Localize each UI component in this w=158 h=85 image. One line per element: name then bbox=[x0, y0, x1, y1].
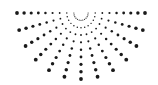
halftone-dot bbox=[59, 18, 61, 20]
halftone-dot bbox=[85, 18, 86, 19]
halftone-dot bbox=[94, 16, 95, 17]
halftone-dot bbox=[51, 62, 54, 65]
halftone-dot bbox=[87, 40, 89, 42]
halftone-dot bbox=[70, 23, 71, 24]
halftone-dot bbox=[121, 23, 124, 26]
halftone-dot bbox=[108, 12, 110, 14]
halftone-dot bbox=[66, 12, 67, 13]
halftone-dot bbox=[93, 20, 94, 21]
halftone-dot bbox=[75, 33, 77, 35]
halftone-dot bbox=[104, 56, 107, 59]
halftone-dot bbox=[80, 20, 81, 21]
halftone-dot bbox=[15, 11, 19, 15]
halftone-dot bbox=[67, 61, 70, 64]
halftone-dot bbox=[120, 53, 123, 56]
halftone-dot bbox=[73, 25, 74, 26]
halftone-dot bbox=[84, 19, 85, 20]
halftone-dot bbox=[79, 77, 83, 81]
halftone-dot bbox=[49, 43, 52, 46]
halftone-dot bbox=[58, 50, 61, 53]
halftone-dot bbox=[24, 44, 28, 48]
halftone-dot bbox=[73, 12, 74, 13]
halftone-dot bbox=[111, 30, 113, 32]
halftone-dot bbox=[135, 44, 139, 48]
halftone-dot bbox=[39, 53, 42, 56]
halftone-dot bbox=[22, 11, 25, 14]
halftone-dot bbox=[55, 27, 57, 29]
halftone-dot bbox=[37, 12, 40, 15]
halftone-dot bbox=[44, 12, 46, 14]
halftone-dot bbox=[74, 16, 75, 17]
halftone-dot bbox=[30, 41, 33, 44]
halftone-dot bbox=[87, 16, 88, 17]
halftone-dot bbox=[43, 34, 46, 37]
halftone-dot bbox=[100, 33, 102, 35]
halftone-dot bbox=[92, 61, 95, 64]
halftone-dot bbox=[59, 12, 61, 14]
halftone-dot bbox=[91, 31, 93, 33]
halftone-dot bbox=[114, 21, 116, 23]
halftone-dot bbox=[94, 12, 95, 13]
halftone-dot bbox=[49, 30, 51, 32]
halftone-dot bbox=[80, 34, 82, 36]
halftone-dot bbox=[91, 54, 94, 57]
halftone-dot bbox=[87, 25, 88, 26]
halftone-dot bbox=[98, 44, 100, 46]
halftone-dot bbox=[123, 37, 126, 40]
halftone-dot bbox=[129, 41, 132, 44]
halftone-dot bbox=[68, 20, 69, 21]
halftone-dot bbox=[31, 25, 34, 28]
halftone-dot bbox=[51, 12, 53, 14]
halftone-dot bbox=[69, 54, 72, 57]
halftone-dot bbox=[52, 20, 54, 22]
halftone-dot bbox=[30, 11, 33, 14]
halftone-dot bbox=[105, 27, 107, 29]
halftone-dot bbox=[86, 33, 88, 35]
halftone-dot bbox=[101, 12, 103, 14]
halftone-dot bbox=[65, 68, 68, 71]
halftone-dot bbox=[75, 18, 76, 19]
halftone-dot bbox=[117, 34, 120, 37]
halftone-dot bbox=[134, 26, 137, 29]
halftone-dot bbox=[74, 14, 75, 15]
halftone-dot bbox=[62, 23, 64, 25]
halftone-dot bbox=[77, 26, 78, 27]
halftone-dot bbox=[89, 47, 91, 49]
halftone-dot bbox=[129, 11, 132, 14]
halftone-dot bbox=[65, 28, 67, 30]
halftone-dot bbox=[79, 20, 80, 21]
halftone-dot bbox=[99, 23, 101, 25]
halftone-dot bbox=[88, 12, 89, 13]
halftone-dot bbox=[69, 31, 71, 33]
halftone-dot bbox=[115, 12, 117, 14]
halftone-dot bbox=[105, 38, 107, 40]
halftone-dot bbox=[60, 33, 62, 35]
halftone-dot bbox=[84, 26, 85, 27]
halftone-dot bbox=[55, 38, 57, 40]
halftone-dot bbox=[108, 62, 111, 65]
halftone-dot bbox=[124, 58, 128, 62]
halftone-dot bbox=[45, 21, 47, 23]
halftone-dot bbox=[136, 11, 139, 14]
halftone-dot bbox=[82, 20, 83, 21]
halftone-dot bbox=[67, 16, 68, 17]
halftone-dot bbox=[95, 28, 97, 30]
halftone-dot bbox=[80, 27, 81, 28]
halftone-dot bbox=[111, 68, 115, 72]
halftone-dot bbox=[79, 63, 82, 66]
halftone-dot bbox=[101, 50, 104, 53]
halftone-dot bbox=[101, 18, 103, 20]
halftone-dot bbox=[143, 11, 147, 15]
halftone-sunburst-graphic bbox=[0, 0, 158, 85]
halftone-dot bbox=[141, 28, 145, 32]
halftone-dot bbox=[128, 25, 131, 28]
halftone-dot bbox=[80, 48, 82, 50]
halftone-dot bbox=[80, 41, 82, 43]
halftone-dot bbox=[79, 70, 82, 73]
halftone-dot bbox=[36, 37, 39, 40]
halftone-dot bbox=[77, 19, 78, 20]
halftone-dot bbox=[73, 40, 75, 42]
halftone-dot bbox=[87, 14, 88, 15]
halftone-dot bbox=[24, 26, 27, 29]
halftone-dot bbox=[115, 48, 118, 51]
